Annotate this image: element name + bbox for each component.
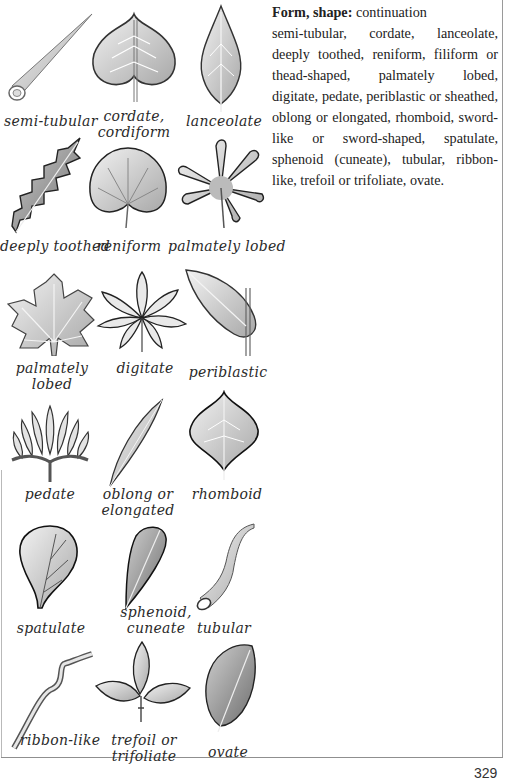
caption-palmately-lobed: palmately lobed (168, 238, 272, 254)
page-frame-right (502, 0, 503, 758)
caption-sphenoid: sphenoid, cuneate (116, 604, 196, 636)
caption-deeply-toothed: deeply toothed (0, 238, 96, 254)
page-number: 329 (474, 766, 497, 779)
deeply-toothed-leaf-icon (8, 134, 84, 234)
section-subheading: continuation (356, 4, 427, 20)
caption-rhomboid: rhomboid (190, 486, 264, 502)
caption-ovate: ovate (200, 744, 256, 760)
caption-cordate: cordate, cordiform (88, 108, 180, 140)
caption-palmately-lobed-2: palmately lobed (14, 360, 90, 392)
caption-spatulate: spatulate (14, 620, 88, 636)
oblong-leaf-icon (106, 398, 166, 488)
digitate-leaf-icon (96, 268, 190, 352)
palmately-lobed-leaf-icon (176, 138, 266, 228)
page-frame-left (1, 470, 2, 758)
caption-oblong: oblong or elongated (100, 486, 176, 518)
trefoil-leaf-icon (94, 640, 194, 722)
caption-digitate: digitate (110, 360, 180, 376)
caption-reniform: reniform (96, 238, 162, 254)
caption-pedate: pedate (18, 486, 82, 502)
palmately-lobed-maple-leaf-icon (6, 272, 96, 356)
ovate-leaf-icon (202, 642, 258, 732)
caption-periblastic: periblastic (188, 364, 268, 380)
section-heading: Form, shape: (272, 4, 352, 20)
tubular-leaf-icon (196, 522, 256, 612)
caption-semi-tubular: semi-tubular (4, 113, 94, 129)
cordate-leaf-icon (90, 6, 178, 102)
periblastic-leaf-icon (184, 264, 264, 356)
caption-trefoil: trefoil or trifoliate (104, 732, 184, 764)
caption-lanceolate: lanceolate (186, 113, 256, 129)
spatulate-leaf-icon (16, 524, 80, 610)
section-body: semi-tubular, cordate, lanceolate, deepl… (272, 25, 498, 188)
rhomboid-leaf-icon (188, 390, 260, 480)
description-text: Form, shape: continuation semi-tubular, … (272, 2, 498, 191)
caption-ribbon-like: ribbon-like (20, 732, 90, 748)
semi-tubular-leaf-icon (4, 8, 94, 103)
caption-tubular: tubular (196, 620, 252, 636)
sphenoid-leaf-icon (124, 522, 170, 610)
lanceolate-leaf-icon (196, 4, 246, 112)
reniform-leaf-icon (86, 144, 170, 228)
pedate-leaf-icon (6, 402, 94, 482)
